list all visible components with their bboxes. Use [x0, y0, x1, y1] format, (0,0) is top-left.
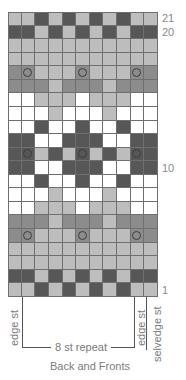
chart-cell [131, 107, 145, 121]
chart-cell [8, 270, 22, 284]
chart-cell [144, 93, 158, 107]
chart-cell [103, 215, 117, 229]
chart-cell [103, 39, 117, 53]
chart-cell [35, 161, 49, 175]
chart-cell [63, 107, 77, 121]
chart-cell [103, 161, 117, 175]
chart-cell [35, 243, 49, 257]
chart-cell [131, 121, 145, 135]
chart-cell [144, 66, 158, 80]
chart-cell [76, 26, 90, 40]
chart-cell [117, 134, 131, 148]
chart-cell [90, 283, 104, 297]
chart-cell [117, 175, 131, 189]
chart-cell [35, 93, 49, 107]
chart-cell [131, 53, 145, 67]
chart-cell [90, 66, 104, 80]
chart-cell [90, 188, 104, 202]
chart-row-6 [8, 215, 158, 229]
chart-cell [49, 93, 63, 107]
chart-cell [76, 80, 90, 94]
chart-cell [90, 161, 104, 175]
circle-symbol-icon [23, 149, 32, 158]
chart-cell [103, 53, 117, 67]
chart-cell [35, 202, 49, 216]
chart-cell [35, 39, 49, 53]
chart-cell [49, 53, 63, 67]
chart-cell [144, 188, 158, 202]
chart-cell [49, 283, 63, 297]
chart-row-2 [8, 270, 158, 284]
chart-cell [131, 39, 145, 53]
chart-cell [90, 26, 104, 40]
chart-cell [8, 148, 22, 162]
chart-cell [35, 256, 49, 270]
chart-cell [63, 215, 77, 229]
chart-cell [144, 134, 158, 148]
chart-cell [35, 148, 49, 162]
chart-cell [117, 12, 131, 26]
chart-cell [76, 202, 90, 216]
chart-cell [90, 256, 104, 270]
chart-cell [35, 12, 49, 26]
chart-cell [103, 134, 117, 148]
chart-cell [76, 256, 90, 270]
chart-cell [90, 148, 104, 162]
chart-cell [117, 66, 131, 80]
chart-cell [35, 188, 49, 202]
chart-cell [63, 121, 77, 135]
chart-cell [144, 283, 158, 297]
chart-cell [76, 229, 90, 243]
chart-cell [8, 93, 22, 107]
chart-cell [76, 161, 90, 175]
chart-row-10 [8, 161, 158, 175]
chart-cell [63, 175, 77, 189]
chart-row-19 [8, 39, 158, 53]
chart-cell [22, 80, 36, 94]
chart-cell [90, 107, 104, 121]
chart-cell [49, 26, 63, 40]
chart-cell [49, 175, 63, 189]
chart-cell [49, 270, 63, 284]
chart-cell [131, 148, 145, 162]
chart-cell [63, 229, 77, 243]
chart-cell [76, 66, 90, 80]
chart-cell [144, 80, 158, 94]
chart-cell [90, 243, 104, 257]
row-number-10: 10 [162, 163, 174, 174]
repeat-label: 8 st repeat [51, 341, 111, 353]
chart-cell [8, 256, 22, 270]
chart-cell [103, 229, 117, 243]
chart-cell [22, 107, 36, 121]
chart-row-21 [8, 12, 158, 26]
chart-cell [76, 148, 90, 162]
chart-cell [117, 93, 131, 107]
chart-cell [131, 283, 145, 297]
chart-cell [90, 53, 104, 67]
chart-cell [76, 215, 90, 229]
chart-cell [90, 93, 104, 107]
chart-cell [22, 148, 36, 162]
chart-cell [22, 270, 36, 284]
chart-cell [90, 80, 104, 94]
chart-cell [90, 202, 104, 216]
chart-cell [35, 80, 49, 94]
chart-cell [8, 107, 22, 121]
chart-cell [22, 93, 36, 107]
chart-cell [63, 256, 77, 270]
chart-cell [90, 229, 104, 243]
chart-cell [103, 148, 117, 162]
chart-cell [63, 12, 77, 26]
chart-cell [63, 202, 77, 216]
chart-cell [144, 202, 158, 216]
chart-cell [76, 93, 90, 107]
chart-cell [35, 134, 49, 148]
chart-row-5 [8, 229, 158, 243]
chart-cell [49, 202, 63, 216]
chart-cell [103, 121, 117, 135]
chart-cell [90, 175, 104, 189]
chart-cell [8, 39, 22, 53]
chart-cell [103, 202, 117, 216]
chart-cell [22, 26, 36, 40]
chart-cell [131, 93, 145, 107]
